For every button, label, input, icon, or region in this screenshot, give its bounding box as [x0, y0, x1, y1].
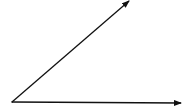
- vertex-point: [11, 101, 13, 103]
- upper-ray-arrow-icon: [12, 1, 129, 102]
- angle-diagram: [0, 0, 185, 110]
- lower-ray-arrow-icon: [12, 102, 181, 103]
